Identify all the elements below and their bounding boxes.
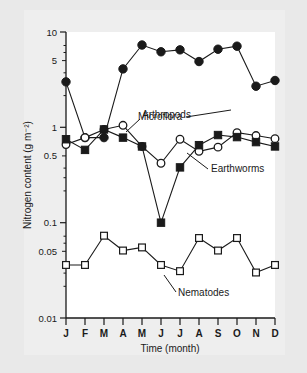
- datapoint-earthworms-O-9: [233, 133, 240, 140]
- datapoint-nematodes-A-3: [120, 247, 127, 254]
- y-axis-title: Nitrogen content (g m⁻²): [22, 121, 33, 229]
- datapoint-microflora-A-7: [195, 57, 203, 65]
- datapoint-nematodes-D-11: [272, 262, 279, 269]
- x-tick-label-3: A: [119, 328, 126, 339]
- datapoint-earthworms-J-5: [157, 219, 164, 226]
- datapoint-microflora-J-6: [176, 46, 184, 54]
- datapoint-earthworms-F-1: [81, 146, 88, 153]
- datapoint-earthworms-A-3: [119, 134, 126, 141]
- datapoint-arthropods-D-11: [271, 135, 279, 143]
- figure-screenshot: 10 5 1 0.5 0.1 0.05 0.01 Nitrogen conten…: [0, 0, 307, 373]
- datapoint-nematodes-F-1: [82, 262, 89, 269]
- x-tick-label-6: J: [177, 328, 183, 339]
- nitrogen-content-line-chart: 10 5 1 0.5 0.1 0.05 0.01 Nitrogen conten…: [0, 0, 307, 373]
- y-tick-label-10: 10: [46, 27, 57, 38]
- datapoint-earthworms-J-6: [176, 164, 183, 171]
- datapoint-microflora-M-4: [138, 41, 146, 49]
- series-label-nematodes: Nematodes: [178, 287, 229, 298]
- datapoint-nematodes-O-9: [234, 235, 241, 242]
- datapoint-arthropods-S-8: [214, 143, 222, 151]
- y-tick-label-1: 1: [52, 122, 57, 133]
- datapoint-earthworms-D-11: [271, 143, 278, 150]
- datapoint-nematodes-J-5: [158, 262, 165, 269]
- datapoint-microflora-S-8: [214, 45, 222, 53]
- datapoint-earthworms-M-2: [100, 126, 107, 133]
- datapoint-arthropods-J-5: [157, 159, 165, 167]
- datapoint-nematodes-J-0: [63, 262, 70, 269]
- x-tick-label-0: J: [63, 328, 69, 339]
- datapoint-earthworms-S-8: [214, 131, 221, 138]
- datapoint-arthropods-J-6: [176, 135, 184, 143]
- datapoint-earthworms-A-7: [195, 141, 202, 148]
- y-tick-label-0p05: 0.05: [39, 246, 58, 257]
- datapoint-arthropods-A-3: [119, 122, 127, 130]
- series-label-arthropods: Arthropods: [142, 109, 191, 120]
- y-tick-label-0p1: 0.1: [44, 217, 57, 228]
- x-tick-label-4: M: [138, 328, 146, 339]
- plot-area-background: [66, 32, 275, 318]
- datapoint-microflora-O-9: [233, 42, 241, 50]
- datapoint-earthworms-N-10: [252, 138, 259, 145]
- y-tick-label-5: 5: [52, 55, 57, 66]
- datapoint-nematodes-N-10: [253, 269, 260, 276]
- x-tick-label-1: F: [82, 328, 88, 339]
- datapoint-microflora-J-5: [157, 48, 165, 56]
- x-axis-title: Time (month): [140, 343, 199, 354]
- datapoint-microflora-N-10: [252, 82, 260, 90]
- series-label-earthworms: Earthworms: [211, 163, 264, 174]
- datapoint-microflora-M-2: [100, 133, 108, 141]
- datapoint-earthworms-M-4: [138, 143, 145, 150]
- datapoint-nematodes-J-6: [177, 268, 184, 275]
- x-tick-label-5: J: [158, 328, 164, 339]
- x-tick-label-2: M: [100, 328, 108, 339]
- y-tick-label-0p5: 0.5: [44, 150, 57, 161]
- datapoint-nematodes-A-7: [196, 235, 203, 242]
- x-tick-label-8: S: [215, 328, 222, 339]
- x-tick-label-7: A: [195, 328, 202, 339]
- datapoint-microflora-D-11: [271, 76, 279, 84]
- datapoint-microflora-J-0: [62, 78, 70, 86]
- datapoint-nematodes-S-8: [215, 247, 222, 254]
- x-tick-label-11: D: [271, 328, 278, 339]
- datapoint-nematodes-M-2: [101, 232, 108, 239]
- x-tick-label-10: N: [252, 328, 259, 339]
- datapoint-earthworms-J-0: [62, 136, 69, 143]
- datapoint-arthropods-F-1: [81, 134, 89, 142]
- datapoint-microflora-A-3: [119, 65, 127, 73]
- y-tick-label-0p01: 0.01: [39, 313, 58, 324]
- datapoint-nematodes-M-4: [139, 244, 146, 251]
- x-tick-label-9: O: [233, 328, 241, 339]
